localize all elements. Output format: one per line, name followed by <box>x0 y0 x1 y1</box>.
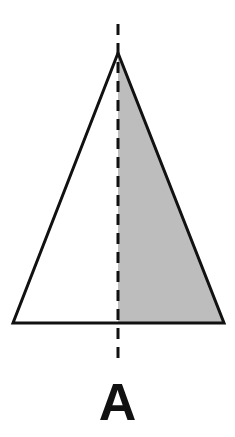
axis-label: A <box>0 374 235 430</box>
triangle-diagram <box>0 0 235 437</box>
